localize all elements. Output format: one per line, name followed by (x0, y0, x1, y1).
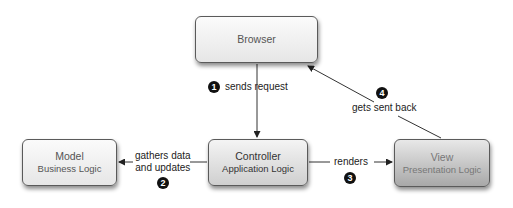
view-node: View Presentation Logic (394, 139, 490, 187)
step-2-badge: 2 (157, 177, 169, 189)
model-subtitle: Business Logic (38, 163, 102, 175)
controller-title: Controller (235, 150, 281, 163)
controller-subtitle: Application Logic (222, 163, 294, 175)
gets-sent-back-label: gets sent back (352, 102, 416, 114)
model-title: Model (55, 150, 84, 163)
step-1-badge: 1 (208, 81, 220, 93)
view-subtitle: Presentation Logic (403, 164, 482, 176)
sends-request-label: sends request (225, 81, 288, 93)
browser-node: Browser (195, 16, 318, 63)
model-node: Model Business Logic (22, 139, 117, 186)
step-3-badge: 3 (344, 172, 356, 184)
view-title: View (431, 151, 454, 164)
renders-label: renders (334, 156, 368, 168)
gathers-data-label: gathers data and updates (135, 150, 191, 174)
arrow-sent-back (308, 66, 374, 102)
controller-node: Controller Application Logic (208, 139, 308, 186)
step-4-badge: 4 (376, 87, 388, 99)
browser-title: Browser (237, 33, 276, 46)
